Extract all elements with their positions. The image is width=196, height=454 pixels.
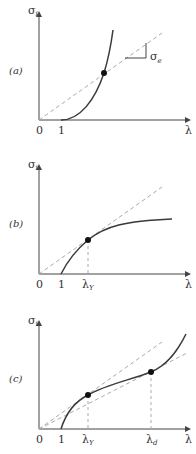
tick-0: 0 <box>36 278 43 291</box>
secant-line <box>39 187 162 274</box>
panel-label: (b) <box>9 218 23 229</box>
secant-line <box>39 33 162 120</box>
panel-a: σe σi λ (a) 0 1 <box>9 4 192 137</box>
panel-label: (a) <box>9 65 23 76</box>
tick-lambda-y: λY <box>82 433 95 447</box>
tick-1: 1 <box>58 278 65 291</box>
tick-lambda-y: λY <box>82 278 95 292</box>
panel-label: (c) <box>9 373 23 384</box>
tick-1: 1 <box>58 433 65 446</box>
tick-0: 0 <box>36 433 43 446</box>
tick-0: 0 <box>36 124 43 137</box>
panel-c: σi λ (c) 0 1 λY λd <box>9 314 192 447</box>
secant-line-yield <box>39 342 162 429</box>
d-point <box>148 369 154 375</box>
y-axis-label: σi <box>28 314 38 328</box>
stress-curve <box>61 334 186 429</box>
x-axis-label: λ <box>185 433 192 446</box>
intersection-point <box>101 70 107 76</box>
panel-b: σi λ (b) 0 1 λY <box>9 158 192 292</box>
stress-curve <box>61 219 172 274</box>
tick-1: 1 <box>58 124 65 137</box>
yield-point <box>85 237 91 243</box>
slope-label: σe <box>150 50 162 65</box>
tick-lambda-d: λd <box>146 433 158 447</box>
x-axis-label: λ <box>185 124 192 137</box>
slope-triangle <box>125 43 146 58</box>
figure-canvas: σe σi λ (a) 0 1 σi λ (b) 0 1 λY σi λ (c)… <box>0 0 196 454</box>
yield-point <box>85 392 91 398</box>
y-axis-label: σi <box>28 4 38 18</box>
y-axis-label: σi <box>28 158 38 172</box>
x-axis-label: λ <box>185 278 192 291</box>
